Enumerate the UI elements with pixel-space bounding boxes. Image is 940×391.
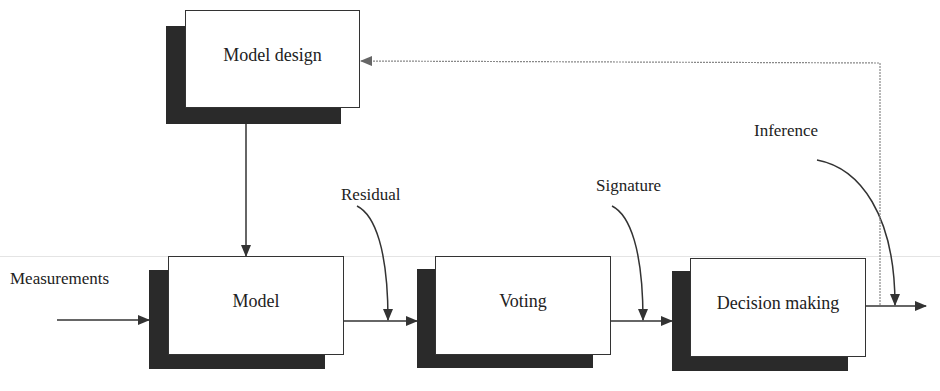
- inference-pointer-arrow: [817, 160, 895, 305]
- connection-wires: [0, 0, 940, 391]
- feedback-arrow: [361, 61, 880, 305]
- residual-pointer-arrow: [357, 206, 388, 320]
- signature-pointer-arrow: [612, 206, 643, 320]
